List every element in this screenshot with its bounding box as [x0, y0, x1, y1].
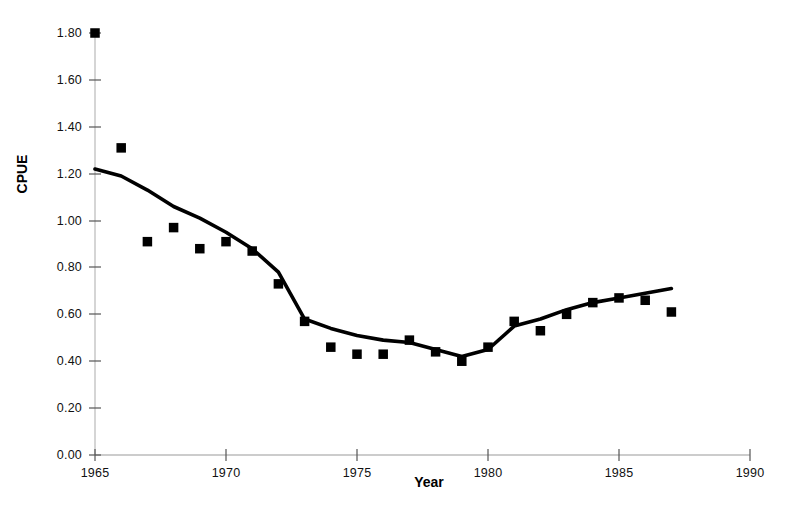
y-axis-title: CPUE	[14, 134, 30, 214]
data-point-marker	[300, 317, 310, 327]
data-point-marker	[588, 298, 598, 308]
y-tick-label-0: 0.00	[40, 448, 82, 462]
x-tick-label-3: 1980	[463, 466, 513, 480]
data-point-marker	[116, 143, 126, 153]
axis-group	[95, 33, 750, 455]
data-point-marker	[457, 356, 467, 366]
y-tick-label-9: 1.80	[40, 26, 82, 40]
data-point-marker	[169, 223, 179, 233]
fitted-cpue-line	[95, 169, 671, 357]
observed-cpue-markers	[90, 28, 676, 366]
data-point-marker	[614, 293, 624, 303]
data-point-marker	[405, 335, 415, 345]
data-layer	[90, 28, 676, 366]
data-point-marker	[640, 296, 650, 306]
y-tick-label-6: 1.20	[40, 167, 82, 181]
y-tick-label-8: 1.60	[40, 73, 82, 87]
y-tick-label-4: 0.80	[40, 260, 82, 274]
data-point-marker	[509, 317, 519, 327]
data-point-marker	[195, 244, 205, 254]
y-tick-label-7: 1.40	[40, 120, 82, 134]
y-tick-label-2: 0.40	[40, 354, 82, 368]
data-point-marker	[352, 349, 362, 359]
data-point-marker	[274, 279, 284, 289]
data-point-marker	[667, 307, 677, 317]
x-tick-label-5: 1990	[725, 466, 775, 480]
data-point-marker	[536, 326, 546, 336]
plot-canvas	[0, 0, 790, 510]
x-tick-label-4: 1985	[594, 466, 644, 480]
x-tick-label-0: 1965	[70, 466, 120, 480]
data-point-marker	[378, 349, 388, 359]
data-point-marker	[90, 28, 100, 38]
data-point-marker	[221, 237, 231, 247]
data-point-marker	[562, 310, 572, 320]
y-tick-label-1: 0.20	[40, 401, 82, 415]
x-tick-label-2: 1975	[332, 466, 382, 480]
data-point-marker	[483, 342, 493, 352]
data-point-marker	[431, 347, 441, 357]
data-point-marker	[326, 342, 336, 352]
data-point-marker	[143, 237, 153, 247]
x-axis-title: Year	[389, 474, 469, 490]
y-tick-label-3: 0.60	[40, 307, 82, 321]
y-tick-label-5: 1.00	[40, 214, 82, 228]
x-tick-label-1: 1970	[201, 466, 251, 480]
data-point-marker	[247, 246, 257, 256]
cpue-year-chart-figure: 0.00 0.20 0.40 0.60 0.80 1.00 1.20 1.40 …	[0, 0, 790, 510]
